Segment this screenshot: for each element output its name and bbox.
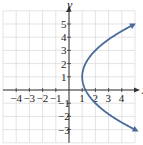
- y-tick-label: 4: [61, 31, 67, 43]
- y-tick-label: 1: [61, 71, 67, 83]
- y-axis-label: y: [66, 0, 73, 12]
- y-tick-label: 2: [61, 58, 67, 70]
- y-tick-label: −2: [58, 110, 70, 122]
- x-tick-label: −3: [23, 92, 35, 104]
- x-tick-label: 3: [106, 92, 112, 104]
- y-tick-label: 5: [61, 18, 67, 30]
- y-tick-label: −3: [58, 124, 70, 136]
- x-tick-label: 4: [119, 92, 125, 104]
- parabola-chart: xy−4−3−2−11234−3−2−112345: [0, 0, 143, 145]
- x-tick-label: −2: [37, 92, 49, 104]
- x-tick-label: −4: [10, 92, 22, 104]
- x-axis-arrow-icon: [134, 88, 140, 93]
- x-tick-label: 1: [79, 92, 85, 104]
- y-tick-label: −1: [58, 97, 70, 109]
- x-axis-label: x: [141, 83, 143, 97]
- y-tick-label: 3: [61, 44, 67, 56]
